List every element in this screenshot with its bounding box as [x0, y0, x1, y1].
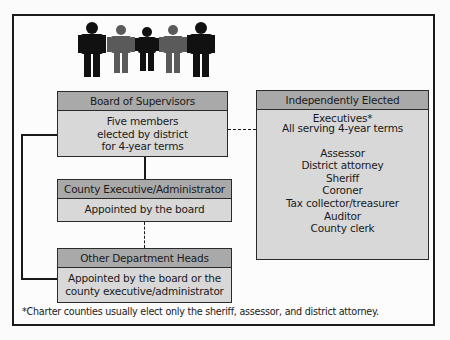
independent-executives-subtitle: All serving 4-year terms: [257, 122, 428, 135]
independent-executives-box: Independently Elected Executives* All se…: [256, 90, 429, 260]
people-icon-group: [78, 22, 216, 78]
office-item: District attorney: [257, 159, 428, 172]
connector-board-exec: [144, 157, 146, 179]
county-executive-line: Appointed by the board: [58, 203, 231, 216]
board-title: Board of Supervisors: [58, 92, 227, 111]
board-line: elected by district: [58, 128, 227, 141]
board-line: for 4-year terms: [58, 140, 227, 153]
independent-executives-title: Independently Elected Executives*: [257, 91, 428, 110]
department-heads-title: Other Department Heads: [58, 249, 231, 268]
person-icon: [187, 22, 215, 77]
connector-exec-dept-dashed: [144, 222, 145, 248]
office-item: Sheriff: [257, 172, 428, 185]
department-heads-line: county executive/administrator: [58, 285, 231, 298]
footnote: *Charter counties usually elect only the…: [22, 306, 379, 317]
office-item: Tax collector/treasurer: [257, 197, 428, 210]
county-executive-title: County Executive/Administrator: [58, 180, 231, 199]
person-icon: [107, 25, 135, 73]
department-heads-description: Appointed by the board or the county exe…: [58, 268, 231, 297]
office-item: Coroner: [257, 184, 428, 197]
board-line: Five members: [58, 115, 227, 128]
county-executive-box: County Executive/Administrator Appointed…: [57, 179, 232, 222]
person-icon: [135, 27, 159, 71]
department-heads-line: Appointed by the board or the: [58, 272, 231, 285]
board-of-supervisors-box: Board of Supervisors Five members electe…: [57, 91, 228, 157]
board-description: Five members elected by district for 4-y…: [58, 111, 227, 153]
office-item: County clerk: [257, 222, 428, 235]
connector-dept-left: [21, 278, 58, 280]
department-heads-box: Other Department Heads Appointed by the …: [57, 248, 232, 303]
connector-board-to-iee-dashed: [228, 129, 256, 130]
county-executive-description: Appointed by the board: [58, 199, 231, 216]
person-icon: [78, 22, 106, 77]
connector-board-left: [21, 134, 58, 136]
independent-executives-description: All serving 4-year terms Assessor Distri…: [257, 110, 428, 235]
office-item: Auditor: [257, 210, 428, 223]
office-item: Assessor: [257, 147, 428, 160]
connector-left-vertical: [21, 134, 23, 279]
person-icon: [159, 25, 187, 73]
